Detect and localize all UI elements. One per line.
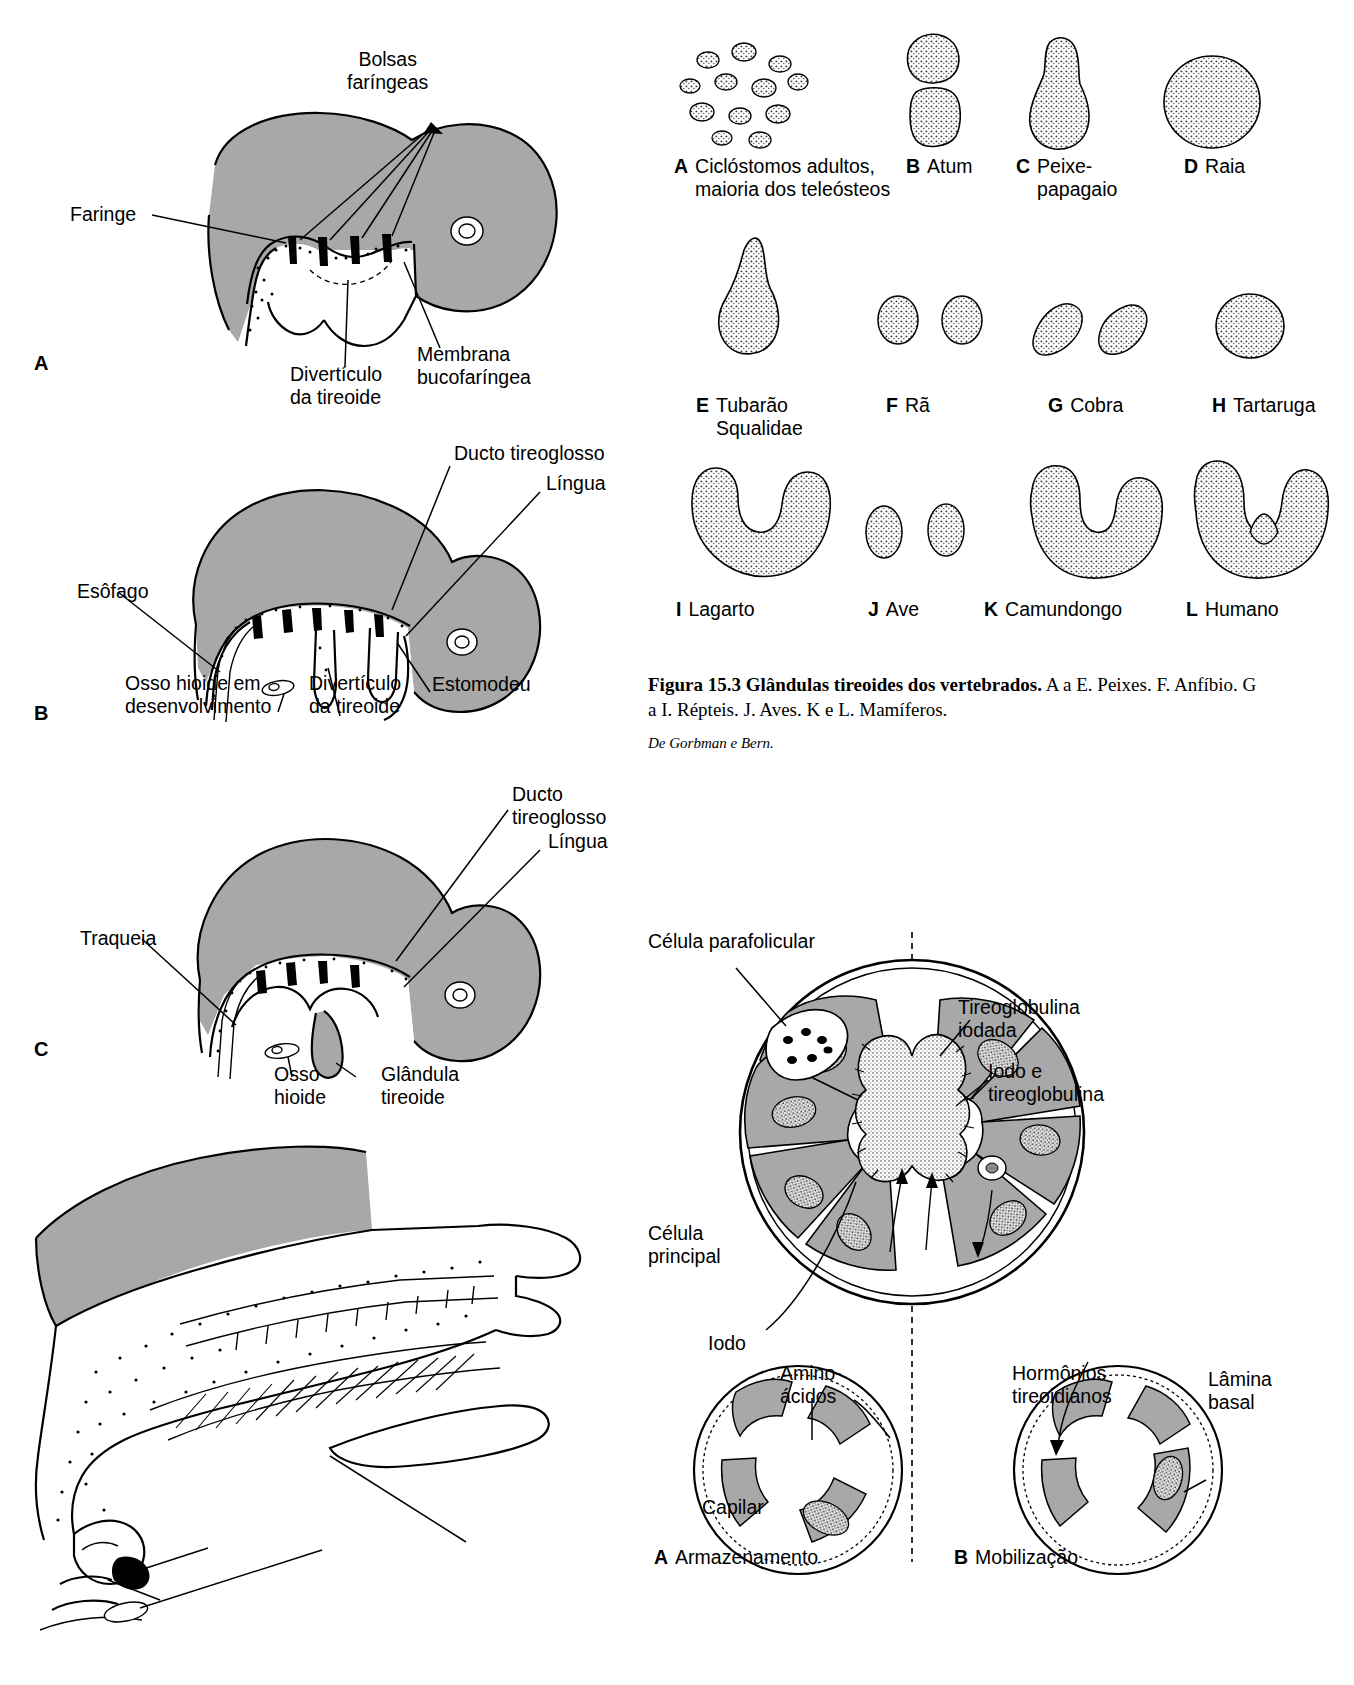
specimen-j-shape — [866, 504, 964, 558]
follicle-label-iodide-and-thyroglobulin: Iodo e tireoglobulina — [988, 1060, 1104, 1106]
specimen-l-shape — [1195, 461, 1329, 578]
panel-c-label-hyoid-bone: Osso hioide — [274, 1063, 326, 1109]
specimen-caption-l: L Humano — [1186, 598, 1279, 621]
specimen-name-h: Tartaruga — [1233, 394, 1315, 417]
panel-a-label-thyroid-diverticulum: Divertículo da tireoide — [290, 363, 382, 409]
figure-number: Figura 15.3 — [648, 674, 741, 695]
specimen-name-f: Rã — [905, 394, 930, 417]
follicle-subpanel-a-letter: A — [654, 1546, 668, 1569]
panel-b-label-stomodeum: Estomodeu — [432, 673, 531, 696]
specimen-letter-g: G — [1048, 394, 1063, 417]
specimen-name-l: Humano — [1205, 598, 1279, 621]
panel-c-label-tongue: Língua — [548, 830, 608, 853]
specimen-caption-e: E Tubarão Squalidae — [696, 394, 803, 440]
specimen-caption-b: B Atum — [906, 155, 973, 178]
follicle-subpanel-a-caption: A Armazenamento — [654, 1546, 818, 1569]
specimen-name-e: Tubarão Squalidae — [716, 394, 803, 440]
specimen-caption-h: H Tartaruga — [1212, 394, 1315, 417]
specimen-caption-g: G Cobra — [1048, 394, 1123, 417]
panel-a-letter: A — [34, 352, 48, 375]
follicle-label-thyroid-hormones: Hormônios tireoidianos — [1012, 1362, 1112, 1408]
follicle-subpanel-a-title: Armazenamento — [675, 1546, 818, 1569]
follicle-label-iodinated-thyroglobulin: Tireoglobulina iodada — [958, 996, 1080, 1042]
panel-a-label-pharynx: Faringe — [70, 203, 136, 226]
specimen-letter-k: K — [984, 598, 998, 621]
specimen-letter-b: B — [906, 155, 920, 178]
follicle-subpanel-b-letter: B — [954, 1546, 968, 1569]
specimen-c-shape — [1030, 38, 1089, 149]
panel-a-label-pharyngeal-pouches: Bolsas faríngeas — [347, 48, 428, 94]
specimen-name-a: Ciclóstomos adultos, maioria dos teleóst… — [695, 155, 890, 201]
specimen-k-shape — [1031, 466, 1163, 578]
panel-b-label-thyroglossal-duct: Ducto tireoglosso — [454, 442, 605, 465]
follicle-label-basal-lamina: Lâmina basal — [1208, 1368, 1272, 1414]
specimen-h-shape — [1216, 294, 1284, 358]
specimen-name-j: Ave — [886, 598, 919, 621]
specimen-caption-c: C Peixe- papagaio — [1016, 155, 1117, 201]
panel-d: Laringe Hioide Língua Glândula tireoide … — [0, 1110, 640, 1685]
follicle-label-amino-acids: Amino- ácidos — [780, 1362, 842, 1408]
follicle-label-principal-cell: Célula principal — [648, 1222, 721, 1268]
follicle-label-parafollicular-cell: Célula parafolicular — [648, 930, 815, 953]
specimen-caption-d: D Raia — [1184, 155, 1245, 178]
specimen-name-b: Atum — [927, 155, 973, 178]
specimen-letter-c: C — [1016, 155, 1030, 178]
specimen-a-shape — [680, 43, 808, 148]
specimen-name-g: Cobra — [1070, 394, 1123, 417]
panel-b: Ducto tireoglosso Língua Esôfago Osso hi… — [0, 420, 640, 765]
specimen-letter-j: J — [868, 598, 879, 621]
specimen-letter-f: F — [886, 394, 898, 417]
panel-a: Bolsas faríngeas Faringe Divertículo da … — [0, 0, 640, 400]
panel-b-letter: B — [34, 702, 48, 725]
specimen-name-i: Lagarto — [688, 598, 754, 621]
follicle-label-capillary: Capilar — [702, 1496, 764, 1519]
panel-b-label-esophagus: Esôfago — [77, 580, 149, 603]
specimen-i-shape — [692, 468, 830, 576]
specimen-letter-i: I — [676, 598, 681, 621]
specimen-letter-l: L — [1186, 598, 1198, 621]
panel-c: Ducto tireoglosso Língua Traqueia Osso h… — [0, 765, 640, 1115]
specimen-name-d: Raia — [1205, 155, 1245, 178]
thyroid-specimens-grid: A Ciclóstomos adultos, maioria dos teleó… — [640, 20, 1354, 700]
panel-c-label-thyroid-gland: Glândula tireoide — [381, 1063, 459, 1109]
specimen-b-shape — [907, 34, 960, 146]
specimen-g-shape — [1033, 304, 1147, 355]
panel-b-label-hyoid-bone: Osso hioide em desenvolvimento — [125, 672, 271, 718]
specimen-e-shape — [719, 238, 779, 354]
panel-a-label-buccopharyngeal-membrane: Membrana bucofaríngea — [417, 343, 531, 389]
follicle-subpanel-b-caption: B Mobilização — [954, 1546, 1078, 1569]
specimen-name-k: Camundongo — [1005, 598, 1122, 621]
specimen-letter-a: A — [674, 155, 688, 178]
specimen-caption-a: A Ciclóstomos adultos, maioria dos teleó… — [674, 155, 890, 201]
specimen-letter-d: D — [1184, 155, 1198, 178]
specimen-name-c: Peixe- papagaio — [1037, 155, 1117, 201]
specimen-f-shape — [878, 296, 982, 344]
specimen-caption-j: J Ave — [868, 598, 919, 621]
specimen-caption-i: I Lagarto — [676, 598, 755, 621]
follicle-label-iodide: Iodo — [708, 1332, 746, 1355]
follicle-subpanel-b-title: Mobilização — [975, 1546, 1078, 1569]
specimen-d-shape — [1164, 56, 1260, 148]
panel-c-label-trachea: Traqueia — [80, 927, 156, 950]
figure-source: De Gorbman e Bern. — [648, 733, 1260, 753]
figure-caption-bold: Glândulas tireoides dos vertebrados. — [746, 674, 1042, 695]
figure-caption-block: Figura 15.3 Glândulas tireoides dos vert… — [648, 672, 1260, 753]
panel-c-label-thyroglossal-duct: Ducto tireoglosso — [512, 783, 606, 829]
specimen-caption-k: K Camundongo — [984, 598, 1122, 621]
specimen-letter-h: H — [1212, 394, 1226, 417]
panel-b-label-thyroid-diverticulum: Divertículo da tireoide — [309, 672, 401, 718]
panel-d-drawing — [0, 1110, 640, 1685]
thyroid-follicle-diagram: Célula parafolicular Tireoglobulina ioda… — [640, 900, 1354, 1685]
panel-a-drawing — [0, 0, 640, 400]
panel-c-letter: C — [34, 1038, 48, 1061]
figure-page: Bolsas faríngeas Faringe Divertículo da … — [0, 0, 1354, 1685]
specimen-letter-e: E — [696, 394, 709, 417]
panel-b-label-tongue: Língua — [546, 472, 606, 495]
figure-caption-text: Figura 15.3 Glândulas tireoides dos vert… — [648, 672, 1260, 722]
specimen-caption-f: F Rã — [886, 394, 930, 417]
